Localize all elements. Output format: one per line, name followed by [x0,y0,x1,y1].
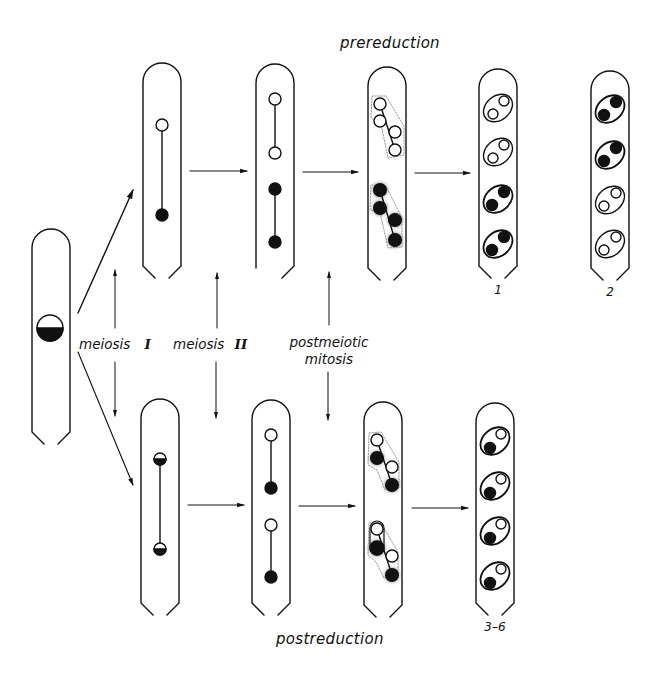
spore-mixed [475,557,515,596]
nucleus-filled-icon [370,541,384,555]
ascus-top-2 [590,71,630,280]
nucleus-filled-icon [269,236,281,248]
nucleus-open-icon [374,115,386,127]
spore-open-open [478,133,518,172]
ascus-top-1 [478,69,518,278]
nucleus-filled-icon [389,234,402,247]
nucleus-open-icon [265,429,277,441]
ascus-top-meiosis-1 [143,63,181,278]
label-postreduction: postreduction [276,630,384,648]
label-postmeiotic-mitosis: postmeiotic mitosis [284,334,374,368]
spore-mixed [475,467,515,506]
meiosis-2-numeral: II [235,336,248,352]
ascus-zygote [32,229,70,444]
nucleus-open-icon [386,550,398,562]
arrow-to-postreduction [78,352,133,485]
spore-filled-filled [478,180,518,219]
spore-filled-filled [478,225,518,264]
ascus-bottom-3-6 [475,403,515,615]
meiosis-1-numeral: I [145,336,151,352]
spore-filled-filled [590,136,630,175]
spore-open-open [590,181,630,220]
nucleus-open-icon [389,144,401,156]
ascus-bottom-mitosis [364,402,402,617]
label-ascus-3-6: 3–6 [475,620,515,634]
ascus-top-mitosis [368,67,406,280]
nucleus-filled-icon [374,184,387,197]
nucleus-open-icon [389,126,401,138]
diploid-nucleus-icon [37,315,63,341]
spore-mixed [475,422,515,461]
nucleus-open-icon [374,98,386,110]
nucleus-open-icon [371,523,383,535]
spore-mixed [475,512,515,551]
ascus-bottom-meiosis-1 [141,399,179,615]
nucleus-filled-icon [386,569,399,582]
nucleus-filled-icon [156,209,168,221]
label-meiosis-1: meiosis I [79,336,151,352]
nucleus-open-icon [269,93,281,105]
meiosis-segregation-diagram: prereduction postreduction meiosis I mei… [0,0,657,673]
label-prereduction: prereduction [340,34,440,52]
nucleus-filled-icon [269,183,281,195]
label-ascus-1: 1 [488,283,508,297]
meiosis-1-text: meiosis [79,336,130,352]
nucleus-open-icon [265,519,277,531]
nucleus-half-icon [154,543,166,555]
ascus-top-meiosis-2 [256,64,294,278]
nucleus-open-icon [371,434,383,446]
postmeiotic-line-1: postmeiotic [284,334,374,351]
spore-open-open [590,225,630,264]
label-ascus-2: 2 [600,285,620,299]
spore-filled-filled [590,90,630,129]
nucleus-filled-icon [265,482,277,494]
nucleus-open-icon [156,119,168,131]
spore-open-open [478,89,518,128]
nucleus-filled-icon [389,214,402,227]
nucleus-open-icon [386,461,398,473]
nucleus-filled-icon [265,571,277,583]
nucleus-half-icon [154,453,166,465]
nucleus-filled-icon [374,202,387,215]
label-meiosis-2: meiosis II [173,336,247,352]
arrow-to-prereduction [78,190,133,313]
nucleus-open-icon [269,147,281,159]
nucleus-filled-icon [371,452,384,465]
nucleus-filled-icon [386,479,399,492]
ascus-bottom-meiosis-2 [252,400,290,615]
meiosis-2-text: meiosis [173,336,224,352]
postmeiotic-line-2: mitosis [284,351,374,368]
